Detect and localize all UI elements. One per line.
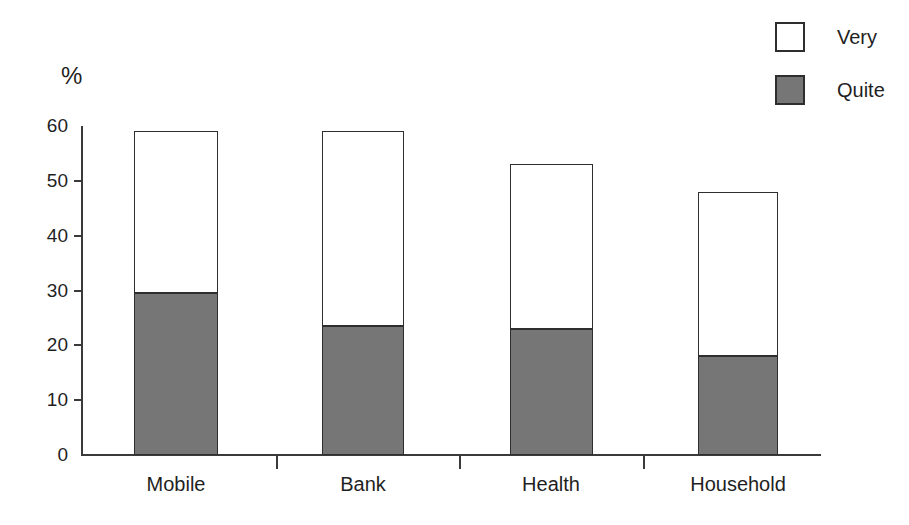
y-tick-10 [74, 399, 82, 401]
x-separator-tick-1 [459, 456, 461, 469]
bar-segment-very-mobile [134, 131, 218, 293]
legend-label-very: Very [837, 27, 877, 47]
bar-segment-quite-mobile [134, 293, 218, 455]
bar-segment-quite-bank [322, 326, 404, 455]
x-separator-tick-0 [276, 456, 278, 469]
bar-segment-quite-health [510, 329, 593, 455]
bar-segment-very-bank [322, 131, 404, 326]
y-tick-label-40: 40 [24, 226, 68, 245]
y-tick-20 [74, 344, 82, 346]
category-label-household: Household [638, 474, 838, 494]
bar-segment-very-health [510, 164, 593, 329]
legend-swatch-very-icon [775, 22, 805, 52]
y-tick-label-10: 10 [24, 390, 68, 409]
legend-swatch-quite-icon [775, 75, 805, 105]
stacked-bar-chart: % 0102030405060 MobileBankHealthHousehol… [0, 0, 909, 525]
y-tick-30 [74, 290, 82, 292]
category-label-mobile: Mobile [76, 474, 276, 494]
legend-item-very[interactable]: Very [775, 22, 877, 52]
legend-label-quite: Quite [837, 80, 885, 100]
y-tick-label-0: 0 [24, 445, 68, 464]
y-tick-50 [74, 180, 82, 182]
legend-item-quite[interactable]: Quite [775, 75, 885, 105]
category-label-health: Health [451, 474, 651, 494]
y-tick-label-50: 50 [24, 171, 68, 190]
y-tick-40 [74, 235, 82, 237]
y-tick-label-30: 30 [24, 281, 68, 300]
y-axis-unit-label: % [61, 64, 82, 88]
category-label-bank: Bank [263, 474, 463, 494]
y-tick-label-20: 20 [24, 335, 68, 354]
bar-segment-very-household [698, 192, 778, 357]
bar-segment-quite-household [698, 356, 778, 455]
y-tick-label-60: 60 [24, 116, 68, 135]
x-separator-tick-2 [643, 456, 645, 469]
